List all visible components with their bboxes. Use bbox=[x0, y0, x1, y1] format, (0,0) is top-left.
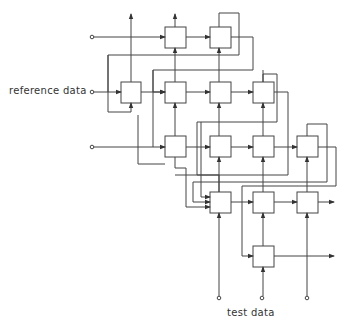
diagram-graphics bbox=[0, 0, 348, 323]
test-data-label: test data bbox=[227, 307, 275, 318]
systolic-array-diagram: reference data test data bbox=[0, 0, 348, 323]
input-terminals bbox=[90, 35, 309, 300]
reference-data-label: reference data bbox=[9, 85, 87, 96]
